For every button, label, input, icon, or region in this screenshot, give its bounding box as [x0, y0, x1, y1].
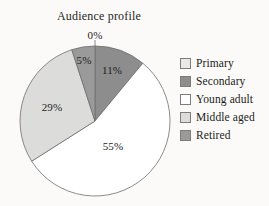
legend-item-label: Young adult [196, 93, 253, 105]
legend-item-label: Middle aged [196, 111, 255, 123]
legend-item: Middle aged [180, 108, 268, 126]
legend-item: Primary [180, 54, 268, 72]
legend-item: Young adult [180, 90, 268, 108]
pie-label-retired: 5% [77, 54, 92, 66]
legend-swatch-icon [180, 76, 191, 87]
legend-item: Retired [180, 126, 268, 144]
legend-item-label: Retired [196, 129, 231, 141]
legend-item: Secondary [180, 72, 268, 90]
legend-swatch-icon [180, 112, 191, 123]
legend-item-label: Secondary [196, 75, 245, 87]
pie-label-primary: 0% [88, 29, 103, 41]
legend-swatch-icon [180, 58, 191, 69]
pie-chart: Audience profile 0% 5% 11% 29% 55% Prima… [0, 0, 269, 206]
pie-label-secondary: 11% [102, 64, 122, 76]
pie-label-young-adult: 55% [103, 140, 123, 152]
legend-item-label: Primary [196, 57, 234, 69]
pie-label-middle-aged: 29% [42, 101, 62, 113]
pie-slices [20, 46, 170, 196]
legend: PrimarySecondaryYoung adultMiddle agedRe… [180, 54, 268, 144]
legend-swatch-icon [180, 94, 191, 105]
legend-swatch-icon [180, 130, 191, 141]
